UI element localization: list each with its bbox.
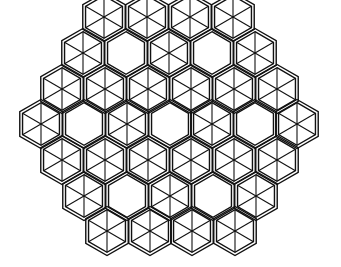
spoke-line: [66, 196, 84, 207]
spoke-line: [256, 185, 274, 196]
spoke-line: [277, 78, 295, 89]
spoke-line: [151, 53, 169, 64]
spoke-line: [23, 113, 41, 124]
spoke-line: [130, 149, 148, 160]
spoke-line: [234, 89, 252, 100]
spoke-line: [148, 149, 166, 160]
spoke-line: [259, 160, 277, 171]
hexagon-tiling-diagram: [0, 0, 341, 267]
spoke-line: [235, 231, 253, 242]
hexagon-cell-spoked: [41, 136, 83, 185]
spoke-line: [234, 149, 252, 160]
spoke-line: [147, 6, 165, 17]
spoke-line: [255, 42, 273, 53]
spoke-line: [277, 89, 295, 100]
spoke-line: [233, 17, 251, 28]
spoke-line: [277, 160, 295, 171]
spoke-line: [152, 196, 170, 207]
spoke-line: [212, 124, 230, 135]
spoke-line: [105, 160, 123, 171]
spoke-line: [41, 124, 59, 135]
spoke-line: [152, 185, 170, 196]
spoke-line: [172, 17, 190, 28]
spoke-line: [87, 160, 105, 171]
spoke-line: [83, 53, 101, 64]
spoke-line: [234, 78, 252, 89]
spoke-line: [66, 185, 84, 196]
spoke-line: [107, 231, 125, 242]
spoke-line: [173, 89, 191, 100]
spoke-line: [87, 78, 105, 89]
spoke-line: [237, 42, 255, 53]
spoke-line: [297, 113, 315, 124]
spoke-line: [65, 42, 83, 53]
spoke-line: [148, 89, 166, 100]
spoke-line: [255, 53, 273, 64]
spoke-line: [191, 78, 209, 89]
spoke-line: [147, 17, 165, 28]
spoke-line: [238, 196, 256, 207]
hexagon-cell-spoked: [62, 29, 104, 78]
spoke-line: [44, 160, 62, 171]
spoke-line: [65, 53, 83, 64]
spoke-line: [216, 78, 234, 89]
spoke-line: [23, 124, 41, 135]
spoke-line: [44, 89, 62, 100]
spoke-line: [127, 124, 145, 135]
spoke-line: [173, 160, 191, 171]
spoke-line: [89, 231, 107, 242]
spoke-line: [238, 185, 256, 196]
spoke-line: [194, 113, 212, 124]
spoke-line: [130, 160, 148, 171]
spoke-line: [150, 220, 168, 231]
spoke-line: [87, 89, 105, 100]
spoke-line: [148, 160, 166, 171]
spoke-line: [62, 78, 80, 89]
spoke-line: [190, 6, 208, 17]
spoke-line: [174, 231, 192, 242]
spoke-line: [212, 113, 230, 124]
spoke-line: [173, 149, 191, 160]
spoke-line: [256, 196, 274, 207]
spoke-line: [194, 124, 212, 135]
spoke-line: [104, 17, 122, 28]
spoke-line: [129, 6, 147, 17]
spoke-line: [86, 17, 104, 28]
spoke-line: [217, 220, 235, 231]
spoke-line: [215, 6, 233, 17]
spoke-line: [104, 6, 122, 17]
spoke-line: [259, 78, 277, 89]
hexagon-cell-spoked: [170, 136, 212, 185]
spoke-line: [62, 160, 80, 171]
spoke-line: [132, 220, 150, 231]
spoke-line: [62, 149, 80, 160]
spoke-line: [105, 149, 123, 160]
spoke-line: [105, 78, 123, 89]
spoke-line: [279, 113, 297, 124]
hexagon-cell-spoked: [84, 136, 126, 185]
spoke-line: [190, 17, 208, 28]
hexagon-cell-spoked: [213, 136, 255, 185]
spoke-line: [174, 220, 192, 231]
spoke-line: [277, 149, 295, 160]
spoke-line: [84, 185, 102, 196]
spoke-line: [84, 196, 102, 207]
hexagon-cell-spoked: [148, 29, 190, 78]
spoke-line: [130, 78, 148, 89]
spoke-line: [173, 78, 191, 89]
spoke-line: [259, 89, 277, 100]
spoke-line: [130, 89, 148, 100]
spoke-line: [44, 149, 62, 160]
hexagon-cell-empty: [191, 29, 233, 78]
spoke-line: [109, 124, 127, 135]
spoke-line: [86, 6, 104, 17]
spoke-line: [237, 53, 255, 64]
spoke-line: [191, 149, 209, 160]
hexagon-cell-spoked: [63, 172, 105, 221]
spoke-line: [172, 6, 190, 17]
spoke-line: [215, 17, 233, 28]
spoke-line: [169, 42, 187, 53]
spoke-line: [89, 220, 107, 231]
hexagon-cell-spoked: [234, 29, 276, 78]
spoke-line: [109, 113, 127, 124]
